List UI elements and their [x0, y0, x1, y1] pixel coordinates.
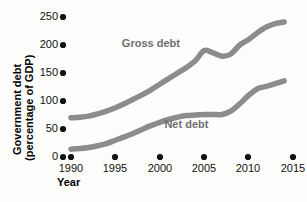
x-tick-dot-2010: [245, 154, 251, 160]
x-tick-dot-2000: [157, 154, 163, 160]
x-tick-dot-1990: [68, 154, 74, 160]
x-tick-label-1995: 1995: [103, 162, 127, 174]
y-tick-dot-100: [60, 98, 66, 104]
x-tick-label-2005: 2005: [192, 162, 216, 174]
y-tick-label-250: 250: [40, 10, 58, 22]
y-tick-dot-50: [60, 126, 66, 132]
x-tick-dot-2005: [201, 154, 207, 160]
x-tick-label-2015: 2015: [281, 162, 305, 174]
government-debt-chart: 0 50 100 150 200 250 1990 1995 2000 2005…: [0, 0, 307, 202]
x-tick-dot-2015: [290, 154, 296, 160]
y-axis-title: Government debt (percentage of GDP): [11, 54, 35, 161]
x-tick-label-2000: 2000: [148, 162, 172, 174]
y-axis-title-line2: (percentage of GDP): [23, 54, 35, 161]
y-tick-label-100: 100: [40, 94, 58, 106]
y-axis-group: 0 50 100 150 200 250: [40, 10, 66, 162]
y-tick-label-0: 0: [52, 150, 58, 162]
y-tick-dot-0: [60, 154, 66, 160]
y-tick-dot-250: [60, 14, 66, 20]
chart-canvas: 0 50 100 150 200 250 1990 1995 2000 2005…: [0, 0, 307, 202]
gross-debt-label: Gross debt: [122, 37, 180, 49]
y-tick-label-50: 50: [46, 122, 58, 134]
x-tick-label-2010: 2010: [236, 162, 260, 174]
net-debt-label: Net debt: [164, 118, 208, 130]
x-tick-label-1990: 1990: [59, 162, 83, 174]
y-tick-dot-150: [60, 70, 66, 76]
y-tick-label-150: 150: [40, 66, 58, 78]
y-tick-dot-200: [60, 42, 66, 48]
x-axis-title: Year: [57, 176, 81, 188]
y-tick-label-200: 200: [40, 38, 58, 50]
y-axis-title-line1: Government debt: [11, 64, 23, 155]
x-axis-group: 1990 1995 2000 2005 2010 2015: [59, 154, 305, 174]
x-tick-dot-1995: [112, 154, 118, 160]
